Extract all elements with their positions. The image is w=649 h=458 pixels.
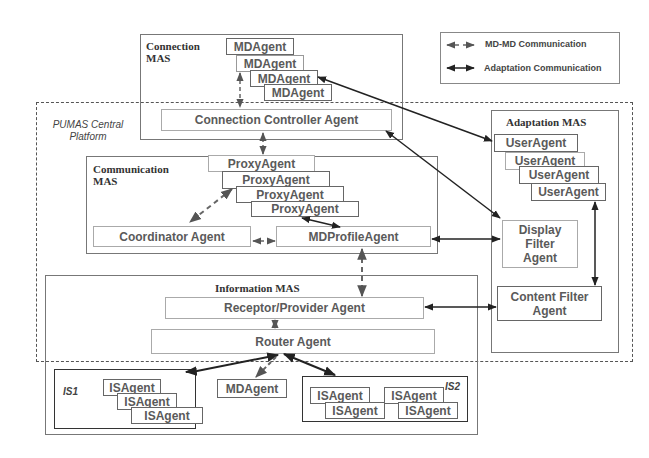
is-agent-3[interactable]: ISAgent: [131, 407, 203, 424]
content-filter-agent[interactable]: Content Filter Agent: [497, 286, 602, 321]
user-agent-4[interactable]: UserAgent: [531, 183, 606, 201]
md-agent-1[interactable]: MDAgent: [226, 38, 294, 55]
connection-mas-title: Connection MAS: [146, 40, 200, 64]
proxy-agent-4[interactable]: ProxyAgent: [251, 201, 359, 217]
user-agent-1[interactable]: UserAgent: [494, 134, 578, 152]
user-agent-3[interactable]: UserAgent: [519, 166, 599, 184]
platform-label: PUMAS Central Platform: [48, 119, 128, 143]
router-agent[interactable]: Router Agent: [151, 329, 435, 354]
information-mas-title: Information MAS: [215, 282, 300, 294]
proxy-agent-1[interactable]: ProxyAgent: [208, 155, 315, 172]
is-agent-7[interactable]: ISAgent: [398, 402, 458, 419]
communication-mas-title: Communication MAS: [93, 163, 169, 187]
legend-adaptation-label: Adaptation Communication: [484, 63, 602, 73]
receptor-provider-agent[interactable]: Receptor/Provider Agent: [165, 297, 424, 319]
is2-label: IS2: [445, 381, 460, 393]
adaptation-mas-title: Adaptation MAS: [506, 116, 586, 128]
is1-label: IS1: [63, 386, 78, 398]
md-agent-information[interactable]: MDAgent: [217, 379, 287, 398]
coordinator-agent[interactable]: Coordinator Agent: [93, 226, 251, 247]
connection-controller-agent[interactable]: Connection Controller Agent: [161, 109, 392, 131]
legend-md-md-label: MD-MD Communication: [485, 39, 587, 49]
display-filter-agent[interactable]: Display Filter Agent: [502, 220, 578, 268]
md-agent-4[interactable]: MDAgent: [264, 84, 332, 101]
is-agent-6[interactable]: ISAgent: [325, 402, 385, 419]
md-profile-agent[interactable]: MDProfileAgent: [276, 226, 431, 247]
